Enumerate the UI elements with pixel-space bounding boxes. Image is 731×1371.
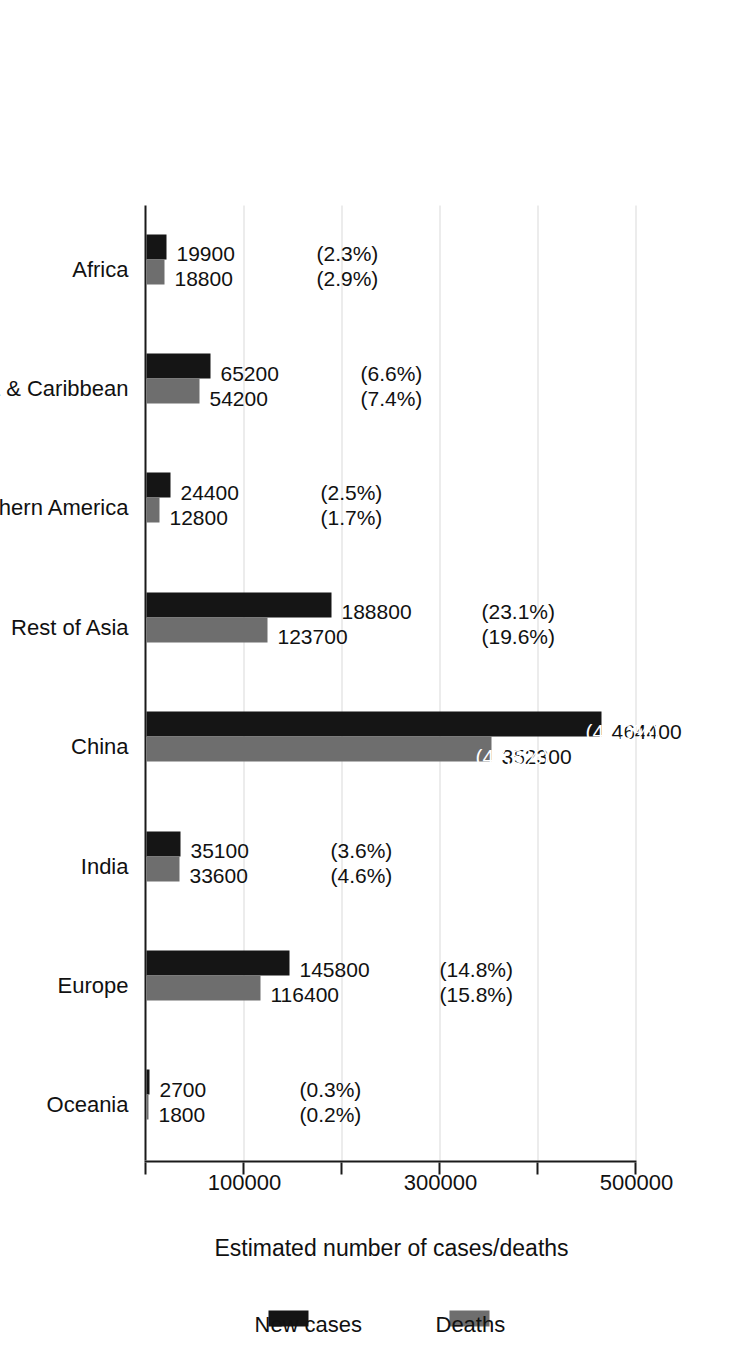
bar-value-label: 54200: [209, 386, 267, 410]
bar-new-cases[interactable]: [146, 234, 166, 259]
bar-deaths[interactable]: [146, 975, 260, 1000]
category-label: Africa: [72, 256, 128, 282]
bar-percent-label: (19.6%): [481, 624, 555, 648]
rotated-figure-stage: 100000300000500000Estimated number of ca…: [0, 0, 731, 1371]
bar-deaths[interactable]: [146, 1094, 148, 1119]
bar-value-label: 35100: [190, 838, 248, 862]
bar-percent-label: (3.6%): [330, 838, 392, 862]
bar-deaths[interactable]: [146, 736, 491, 761]
bar-value-label: 145800: [299, 957, 369, 981]
axis-tick-label: 300000: [403, 1169, 476, 1195]
category-axis-line: [144, 205, 146, 1160]
bar-value-label: 12800: [169, 505, 227, 529]
bar-new-cases[interactable]: [146, 831, 180, 856]
axis-tick: [536, 1162, 538, 1174]
bar-percent-label: (0.2%): [299, 1102, 361, 1126]
gridline: [439, 205, 440, 1160]
bar-percent-label: (47.8%): [475, 744, 549, 768]
gridline: [537, 205, 538, 1160]
category-label: Europe: [57, 972, 128, 998]
bar-value-label: 123700: [277, 624, 347, 648]
bar-value-label: 2700: [159, 1077, 206, 1101]
bar-value-label: 116400: [270, 982, 339, 1006]
category-label: Rest of Asia: [11, 614, 128, 640]
bar-deaths[interactable]: [146, 497, 159, 522]
bar-percent-label: (2.9%): [316, 266, 378, 290]
bar-value-label: 24400: [180, 480, 238, 504]
category-label: Northern America: [0, 494, 128, 520]
bar-deaths[interactable]: [146, 617, 267, 642]
bar-new-cases[interactable]: [146, 472, 170, 497]
category-label: India: [80, 853, 128, 879]
bar-new-cases[interactable]: [146, 353, 210, 378]
bar-value-label: 33600: [189, 863, 247, 887]
gridline: [635, 205, 636, 1160]
legend-label-deaths: Deaths: [435, 1311, 505, 1337]
value-axis-line: [144, 1160, 636, 1162]
bar-new-cases[interactable]: [146, 950, 289, 975]
category-label: Latin America & Caribbean: [0, 375, 128, 401]
axis-title: Estimated number of cases/deaths: [214, 1235, 568, 1262]
axis-tick: [144, 1162, 146, 1174]
bar-deaths[interactable]: [146, 856, 179, 881]
bar-deaths[interactable]: [146, 259, 164, 284]
bar-percent-label: (47.0%): [585, 719, 659, 743]
gridline: [341, 205, 342, 1160]
chart-page: 100000300000500000Estimated number of ca…: [0, 0, 731, 1371]
axis-tick: [340, 1162, 342, 1174]
bar-value-label: 65200: [220, 361, 278, 385]
bar-chart-plot: 100000300000500000Estimated number of ca…: [0, 0, 731, 1371]
bar-new-cases[interactable]: [146, 1069, 149, 1094]
bar-deaths[interactable]: [146, 378, 199, 403]
bar-value-label: 18800: [174, 266, 232, 290]
bar-percent-label: (4.6%): [330, 863, 392, 887]
category-label: Oceania: [46, 1091, 128, 1117]
category-label: China: [71, 733, 128, 759]
bar-percent-label: (2.3%): [316, 241, 378, 265]
bar-percent-label: (1.7%): [320, 505, 382, 529]
axis-tick-label: 100000: [207, 1169, 280, 1195]
bar-percent-label: (15.8%): [439, 982, 513, 1006]
bar-value-label: 19900: [176, 241, 234, 265]
bar-percent-label: (0.3%): [299, 1077, 361, 1101]
legend-label-new-cases: New cases: [254, 1311, 362, 1337]
bar-value-label: 1800: [158, 1102, 205, 1126]
bar-new-cases[interactable]: [146, 592, 331, 617]
axis-tick-label: 500000: [599, 1169, 672, 1195]
bar-percent-label: (6.6%): [360, 361, 422, 385]
bar-percent-label: (7.4%): [360, 386, 422, 410]
bar-value-label: 188800: [341, 599, 411, 623]
bar-percent-label: (14.8%): [439, 957, 513, 981]
gridline: [243, 205, 244, 1160]
bar-percent-label: (23.1%): [481, 599, 555, 623]
bar-percent-label: (2.5%): [320, 480, 382, 504]
bar-new-cases[interactable]: [146, 711, 601, 736]
